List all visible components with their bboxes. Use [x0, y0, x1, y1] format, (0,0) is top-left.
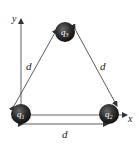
- distance-bottom: d: [23, 124, 108, 140]
- distance-left: d: [14, 29, 57, 106]
- distance-right-label: d: [100, 60, 106, 72]
- y-axis-label: y: [11, 13, 17, 24]
- distance-right: d: [75, 29, 117, 106]
- charge-triangle-diagram: y x d d d q1 q2 q3: [0, 0, 140, 146]
- x-axis-label: x: [127, 113, 133, 124]
- distance-left-label: d: [26, 60, 32, 72]
- charge-q2: q2: [99, 104, 119, 124]
- charge-q1: q1: [11, 104, 31, 124]
- charge-q3: q3: [55, 22, 75, 42]
- distance-bottom-label: d: [62, 128, 68, 140]
